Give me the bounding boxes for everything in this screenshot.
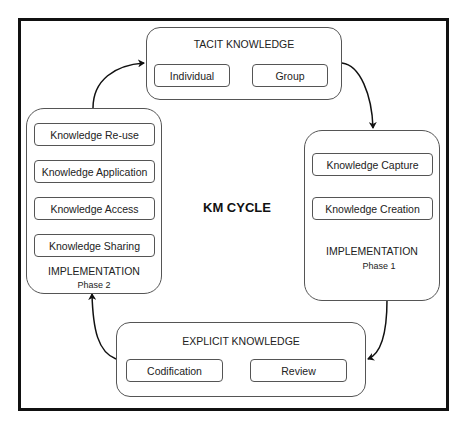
phase2-item-knowledge-sharing: Knowledge Sharing (34, 234, 155, 257)
phase2-item-knowledge-access: Knowledge Access (34, 197, 155, 220)
phase1-label: Phase 1 (319, 261, 439, 271)
phase2-item-knowledge-reuse: Knowledge Re-use (34, 123, 155, 146)
tacit-item-group: Group (252, 64, 328, 87)
implementation-phase1-panel: Knowledge Capture Knowledge Creation IMP… (304, 130, 440, 301)
explicit-item-review: Review (250, 359, 347, 382)
tacit-item-individual: Individual (154, 64, 230, 87)
km-cycle-label: KM CYCLE (203, 200, 271, 215)
explicit-knowledge-title: EXPLICIT KNOWLEDGE (117, 335, 365, 347)
phase1-item-knowledge-creation: Knowledge Creation (312, 197, 433, 220)
implementation-phase2-panel: Knowledge Re-use Knowledge Application K… (26, 108, 162, 294)
tacit-knowledge-panel: TACIT KNOWLEDGE Individual Group (146, 27, 342, 100)
phase1-implementation-title: IMPLEMENTATION (305, 245, 439, 257)
phase2-implementation-title: IMPLEMENTATION (27, 265, 161, 277)
phase1-item-knowledge-capture: Knowledge Capture (312, 153, 433, 176)
tacit-knowledge-title: TACIT KNOWLEDGE (147, 38, 341, 50)
explicit-knowledge-panel: EXPLICIT KNOWLEDGE Codification Review (116, 322, 366, 397)
explicit-item-codification: Codification (126, 359, 223, 382)
phase2-item-knowledge-application: Knowledge Application (34, 160, 155, 183)
phase2-label: Phase 2 (27, 280, 161, 290)
